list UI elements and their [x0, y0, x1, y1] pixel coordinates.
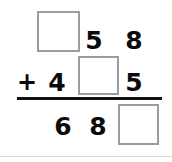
addition-worksheet: 5 8 + 4 5 6 8 [0, 0, 172, 162]
addend2-ones-digit: 5 [122, 70, 146, 95]
sum-ones-input-box[interactable] [118, 104, 159, 145]
sum-hundreds-digit: 6 [51, 114, 75, 139]
addend1-ones-digit: 8 [122, 28, 146, 53]
page-bottom-divider [0, 156, 172, 157]
addend1-tens-digit: 5 [82, 28, 106, 53]
sum-horizontal-rule [17, 97, 162, 100]
addend2-hundreds-digit: 4 [45, 70, 69, 95]
addend1-hundreds-input-box[interactable] [37, 11, 80, 52]
plus-operator-icon: + [17, 70, 37, 94]
addend2-tens-input-box[interactable] [78, 56, 119, 95]
sum-tens-digit: 8 [86, 114, 110, 139]
